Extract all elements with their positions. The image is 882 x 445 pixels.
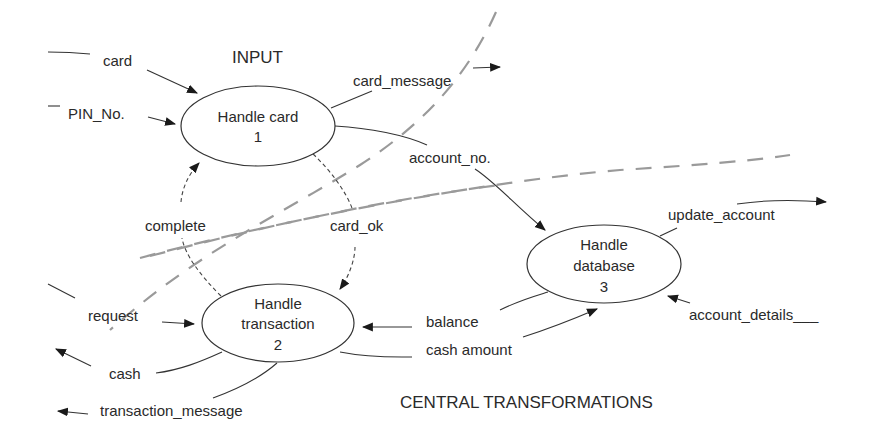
flow-account-details[interactable]: account_details___ bbox=[668, 296, 819, 323]
flow-cash-amount-label: cash amount bbox=[426, 341, 513, 358]
process-1-number: 1 bbox=[254, 128, 262, 145]
process-handle-database[interactable]: Handle database 3 bbox=[527, 225, 681, 303]
flow-update-account-label: update_account bbox=[668, 206, 776, 223]
flow-balance-label: balance bbox=[426, 313, 479, 330]
input-boundary-line bbox=[110, 12, 496, 330]
process-handle-card[interactable]: Handle card 1 bbox=[181, 86, 335, 166]
flow-account-no[interactable]: account_no. bbox=[335, 126, 545, 230]
flow-balance[interactable]: balance bbox=[363, 292, 548, 330]
process-3-name-line1: Handle bbox=[580, 236, 628, 253]
process-2-name-line2: transaction bbox=[241, 315, 314, 332]
region-label-input: INPUT bbox=[232, 48, 283, 67]
flow-pin-no[interactable]: PIN_No. bbox=[48, 105, 175, 124]
flow-complete-label: complete bbox=[145, 217, 206, 234]
flow-update-account[interactable]: update_account bbox=[660, 200, 826, 236]
flow-cash-label: cash bbox=[109, 365, 141, 382]
data-flow-diagram: INPUT CENTRAL TRANSFORMATIONS Handle car… bbox=[0, 0, 882, 445]
flow-card-ok-label: card_ok bbox=[330, 217, 384, 234]
flow-card-ok[interactable]: card_ok bbox=[313, 154, 384, 289]
process-2-number: 2 bbox=[274, 336, 282, 353]
flow-pin-no-label: PIN_No. bbox=[68, 105, 125, 122]
process-1-name: Handle card bbox=[218, 108, 299, 125]
flow-request[interactable]: request bbox=[48, 284, 194, 324]
flow-complete[interactable]: complete bbox=[145, 163, 221, 296]
flow-card-label: card bbox=[103, 52, 132, 69]
flow-account-details-label: account_details___ bbox=[689, 306, 819, 323]
process-handle-transaction[interactable]: Handle transaction 2 bbox=[202, 284, 354, 362]
flow-account-no-label: account_no. bbox=[409, 149, 491, 166]
flow-card[interactable]: card bbox=[48, 52, 197, 93]
flow-transaction-message-label: transaction_message bbox=[100, 402, 243, 419]
process-2-name-line1: Handle bbox=[254, 295, 302, 312]
region-label-central: CENTRAL TRANSFORMATIONS bbox=[400, 393, 653, 412]
process-3-name-line2: database bbox=[573, 257, 635, 274]
flow-request-label: request bbox=[88, 307, 139, 324]
process-3-number: 3 bbox=[600, 278, 608, 295]
flow-card-message-label: card_message bbox=[353, 72, 451, 89]
flow-card-message[interactable]: card_message bbox=[331, 67, 500, 108]
flow-cash[interactable]: cash bbox=[56, 349, 222, 382]
